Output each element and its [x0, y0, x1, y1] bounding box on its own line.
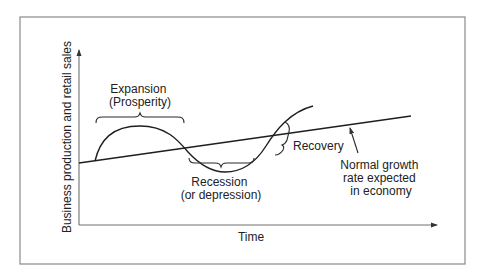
business-cycle-curve [95, 106, 313, 172]
business-cycle-diagram: Business production and retail sales Tim… [0, 0, 482, 277]
trend-annotation-label: Normal growth rate expected in economy [340, 158, 421, 198]
expansion-label: Expansion (Prosperity) [109, 82, 171, 109]
trend-line [79, 116, 411, 163]
recovery-label: Recovery [293, 139, 344, 153]
expansion-brace [96, 113, 184, 123]
recovery-brace [275, 122, 289, 155]
recession-label: Recession (or depression) [181, 175, 262, 202]
y-axis-label: Business production and retail sales [60, 41, 74, 233]
x-axis-label: Time [238, 230, 265, 244]
recession-brace [189, 158, 254, 167]
trend-annotation-arrow [350, 128, 358, 153]
